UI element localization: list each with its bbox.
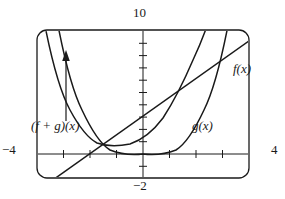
callout-arrow: [62, 50, 70, 121]
curve-label-f: f(x): [233, 62, 251, 75]
plot-canvas: [0, 0, 285, 199]
curve-label-f-plus-g: (f + g)(x): [31, 119, 79, 132]
curve-f: [37, 36, 256, 191]
axis-label-top: 10: [133, 6, 146, 19]
figure-graph-sum-of-functions: 10 −2 −4 4 (f + g)(x) g(x) f(x): [0, 0, 285, 199]
curve-label-g: g(x): [192, 119, 213, 132]
axis-label-right: 4: [271, 143, 278, 156]
axis-label-left: −4: [2, 143, 16, 156]
axis-label-bottom: −2: [133, 179, 147, 192]
